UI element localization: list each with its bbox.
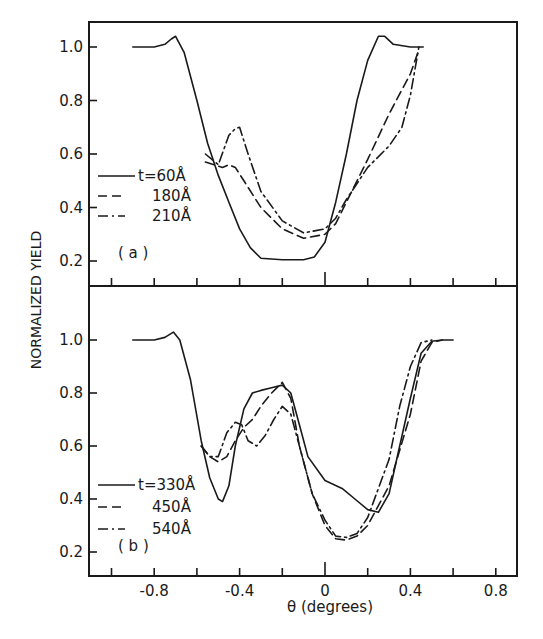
y-tick-label: 0.2: [59, 543, 83, 561]
x-tick-label: 0.4: [398, 582, 422, 600]
legend-label: t=330Å: [138, 475, 196, 494]
chart-figure: -0.8-0.400.40.81.01.00.80.80.60.60.40.40…: [0, 0, 543, 639]
legends: t=60Å180Å210Åt=330Å450Å540Å: [98, 166, 196, 538]
x-tick-label: 0.8: [484, 582, 508, 600]
series-curve: [201, 340, 432, 537]
series-curve: [205, 47, 419, 233]
y-tick-label: 0.2: [59, 252, 83, 270]
y-tick-label: 0.4: [59, 490, 83, 508]
x-tick-label: -0.8: [140, 582, 169, 600]
y-tick-label: 0.6: [59, 437, 83, 455]
y-tick-label: 0.4: [59, 199, 83, 217]
y-axis-label: NORMALIZED YIELD: [28, 231, 44, 370]
data-curves: [133, 36, 453, 540]
legend-label: 210Å: [152, 206, 192, 225]
y-tick-label: 0.8: [59, 92, 83, 110]
series-curve: [133, 36, 423, 259]
y-tick-label: 1.0: [59, 38, 83, 56]
legend-label: t=60Å: [138, 166, 187, 185]
series-curve: [205, 50, 419, 239]
x-axis-label: θ (degrees): [287, 598, 373, 616]
y-tick-label: 1.0: [59, 331, 83, 349]
axis-ticks: -0.8-0.400.40.81.01.00.80.80.60.60.40.40…: [59, 38, 508, 600]
legend-label: 180Å: [152, 186, 192, 205]
y-tick-label: 0.8: [59, 384, 83, 402]
y-tick-label: 0.6: [59, 145, 83, 163]
x-tick-label: -0.4: [225, 582, 254, 600]
legend-label: 540Å: [152, 519, 192, 538]
panel-label-b: ( b ): [118, 537, 149, 555]
panel-label-a: ( a ): [118, 244, 148, 262]
legend-label: 450Å: [152, 497, 192, 516]
